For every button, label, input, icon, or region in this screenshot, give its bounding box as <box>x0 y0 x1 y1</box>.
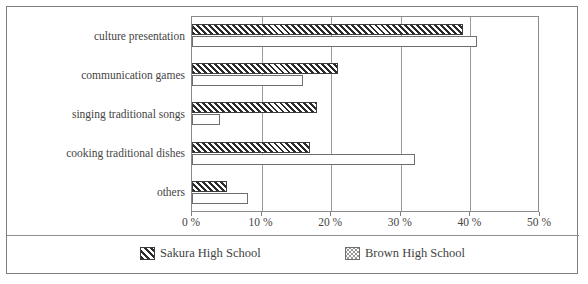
diagonal-hatch-swatch-icon <box>140 247 155 260</box>
bar-group <box>192 135 538 174</box>
bar-group <box>192 174 538 213</box>
axis-tick-label: 10 % <box>249 216 273 229</box>
bar-brown <box>192 154 415 165</box>
dotted-swatch-icon <box>345 247 360 260</box>
category-label: singing traditional songs <box>3 108 185 120</box>
category-label: culture presentation <box>3 30 185 42</box>
legend-item-sakura: Sakura High School <box>140 246 261 260</box>
bar-sakura <box>192 24 463 35</box>
axis-tick-label: 0 % <box>182 216 200 229</box>
bar-brown <box>192 114 220 125</box>
category-axis-labels: culture presentationcommunication gamess… <box>7 16 185 212</box>
chart-area: culture presentationcommunication gamess… <box>7 7 579 222</box>
axis-tick-label: 20 % <box>318 216 342 229</box>
legend-label-sakura: Sakura High School <box>160 246 261 260</box>
category-label: communication games <box>3 69 185 81</box>
bar-sakura <box>192 181 227 192</box>
bar-group <box>192 17 538 56</box>
category-label: cooking traditional dishes <box>3 147 185 159</box>
axis-tick-label: 40 % <box>457 216 481 229</box>
bar-brown <box>192 193 248 204</box>
bar-brown <box>192 36 477 47</box>
axis-tick-label: 30 % <box>388 216 412 229</box>
plot-area <box>191 16 539 212</box>
axis-tick-label: 50 % <box>527 216 551 229</box>
bar-group <box>192 56 538 95</box>
category-label: others <box>3 186 185 198</box>
legend-label-brown: Brown High School <box>365 246 465 260</box>
bar-group <box>192 95 538 134</box>
bar-brown <box>192 75 303 86</box>
legend-item-brown: Brown High School <box>345 246 465 260</box>
chart-legend: Sakura High School Brown High School <box>7 235 579 274</box>
bar-sakura <box>192 102 317 113</box>
value-axis: 0 %10 %20 %30 %40 %50 % <box>191 212 539 234</box>
bar-sakura <box>192 63 338 74</box>
figure-frame: culture presentationcommunication gamess… <box>6 6 578 274</box>
bar-sakura <box>192 142 310 153</box>
